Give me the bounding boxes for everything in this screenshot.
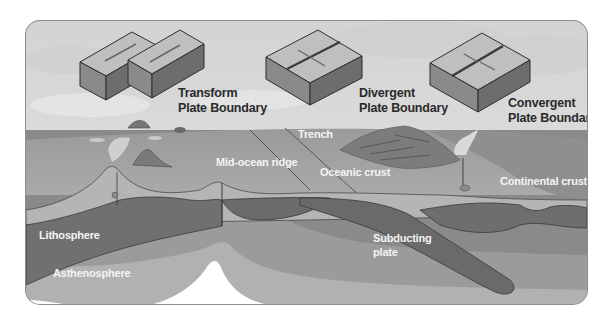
convergent-label-line1: Convergent bbox=[508, 96, 576, 110]
oceanic-crust-label: Oceanic crust bbox=[320, 166, 391, 178]
trench-label: Trench bbox=[298, 128, 333, 140]
divergent-label-line1: Divergent bbox=[359, 86, 416, 100]
convergent-label-line2: Plate Boundary bbox=[508, 111, 597, 125]
transform-label-line2: Plate Boundary bbox=[178, 101, 267, 115]
continental-crust-label: Continental crust bbox=[500, 175, 588, 187]
subducting-plate-label-line2: plate bbox=[373, 246, 398, 258]
subducting-plate-label-line1: Subducting bbox=[373, 232, 432, 244]
transform-label-line1: Transform bbox=[178, 86, 237, 100]
plate-tectonics-diagram: Transform Plate Boundary Divergent Plate… bbox=[0, 0, 610, 320]
divergent-label-line2: Plate Boundary bbox=[359, 101, 448, 115]
asthenosphere-label: Asthenosphere bbox=[53, 267, 131, 279]
mid-ocean-ridge-label: Mid-ocean ridge bbox=[216, 156, 297, 168]
lithosphere-label: Lithosphere bbox=[39, 229, 100, 241]
